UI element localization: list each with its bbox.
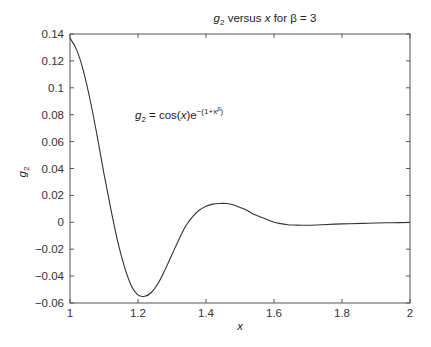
x-tick-label: 1	[67, 307, 73, 319]
x-axis-label: x	[236, 320, 244, 332]
chart-title: g2 versus x for β = 3	[214, 12, 317, 27]
y-tick-label: 0.14	[42, 28, 65, 40]
x-tick-label: 2	[407, 307, 413, 319]
y-tick-label: 0.08	[42, 109, 64, 121]
y-tick-label: 0.02	[42, 189, 64, 201]
axes-box	[70, 34, 410, 303]
x-tick-label: 1.2	[130, 307, 146, 319]
y-tick-label: 0	[58, 216, 64, 228]
y-tick-label: −0.06	[35, 297, 64, 309]
y-tick-label: 0.1	[48, 82, 64, 94]
plot-area: 11.21.41.61.82 0.140.120.10.080.060.040.…	[35, 28, 413, 319]
y-tick-label: 0.04	[42, 163, 65, 175]
x-tick-label: 1.8	[334, 307, 350, 319]
y-tick-label: 0.06	[42, 136, 64, 148]
y-tick-label: 0.12	[42, 55, 64, 67]
y-axis-label: g2	[16, 166, 31, 177]
x-tick-label: 1.6	[266, 307, 282, 319]
y-tick-label: −0.02	[35, 243, 64, 255]
y-tick-label: −0.04	[35, 270, 65, 282]
chart: 11.21.41.61.82 0.140.120.10.080.060.040.…	[0, 0, 431, 347]
x-tick-label: 1.4	[198, 307, 215, 319]
